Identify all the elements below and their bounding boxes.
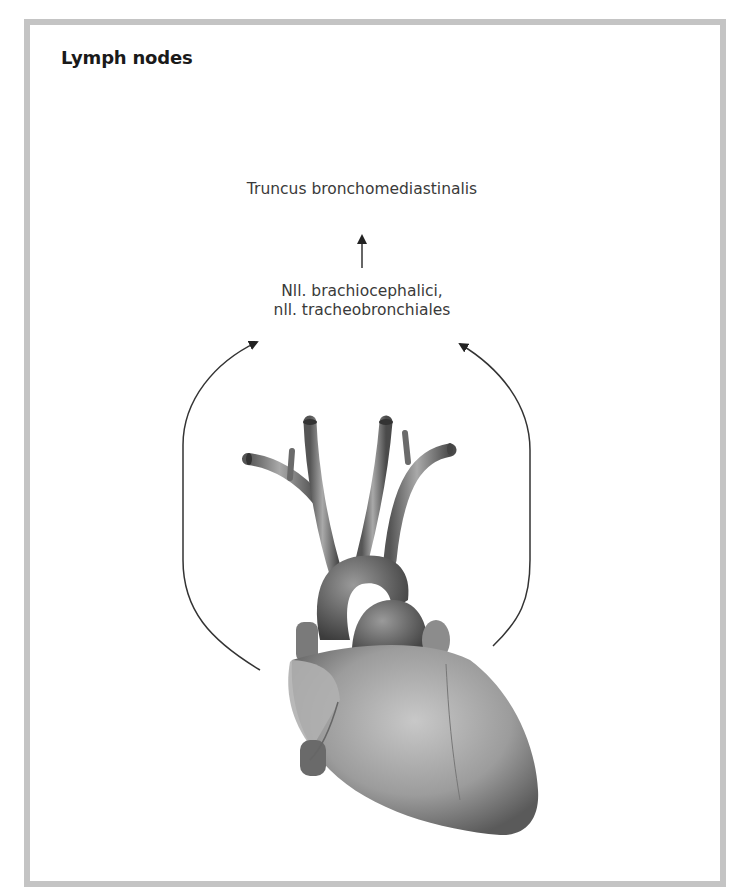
arrow-curved-right-icon: [460, 344, 530, 646]
diagram-canvas: [0, 0, 737, 895]
arrow-curved-left-icon: [183, 342, 260, 670]
heart-illustration: [246, 419, 538, 835]
